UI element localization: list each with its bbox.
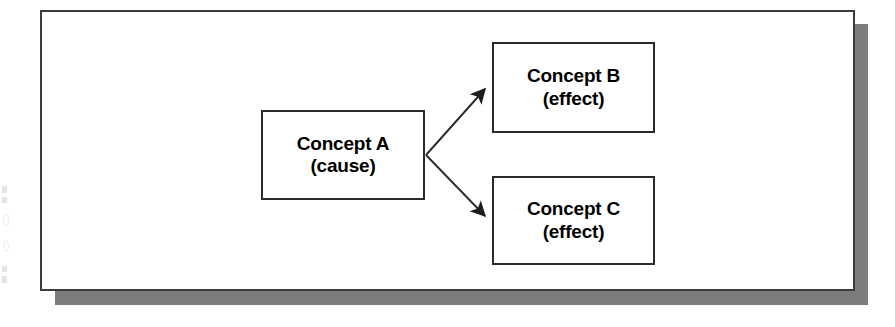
diagram-panel (40, 10, 855, 291)
node-concept-c-subtitle: (effect) (543, 221, 605, 243)
diagram-canvas: Concept A (cause) Concept B (effect) Con… (0, 0, 895, 327)
node-concept-a-subtitle: (cause) (310, 155, 375, 177)
scan-artifact (2, 186, 7, 193)
node-concept-a[interactable]: Concept A (cause) (261, 110, 425, 200)
scan-artifact (2, 266, 7, 272)
node-concept-b-subtitle: (effect) (543, 88, 605, 110)
scan-artifact (2, 276, 7, 283)
node-concept-b[interactable]: Concept B (effect) (492, 42, 655, 133)
scan-artifact (3, 240, 9, 252)
node-concept-b-title: Concept B (527, 65, 620, 87)
scan-artifact (2, 197, 7, 203)
node-concept-c-title: Concept C (527, 198, 620, 220)
node-concept-c[interactable]: Concept C (effect) (492, 176, 655, 265)
scan-artifact (3, 214, 9, 226)
node-concept-a-title: Concept A (297, 133, 390, 155)
